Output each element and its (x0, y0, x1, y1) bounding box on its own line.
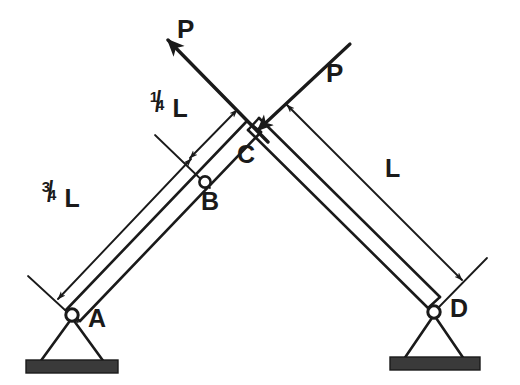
dimension-label-three-quarter-L: 3/4L (42, 182, 80, 211)
dimension-full-L (287, 105, 487, 308)
fraction-denominator: 4 (156, 97, 164, 112)
point-label-B: B (201, 189, 219, 214)
force-label-P-left: P (177, 16, 194, 42)
member-right-CD (248, 118, 440, 308)
member-left-AC (66, 121, 261, 321)
point-label-D: D (450, 296, 468, 321)
point-label-A: A (88, 306, 106, 331)
fraction-three-quarters: 3/4 (42, 182, 62, 207)
dimension-unit-label: L (173, 94, 188, 122)
fraction-denominator: 4 (48, 187, 56, 202)
force-label-P-right: P (326, 60, 343, 86)
engineering-diagram: P P 1/4L 3/4L L A B C D (0, 0, 520, 385)
point-label-C: C (237, 142, 255, 167)
dimension-three-quarter-L (28, 135, 210, 322)
dimension-unit-label: L (65, 184, 80, 212)
dimension-label-quarter-L: 1/4L (150, 92, 188, 121)
fraction-one-quarter: 1/4 (150, 92, 170, 117)
pin-joint-B (199, 176, 210, 187)
dimension-label-full-L: L (385, 156, 400, 181)
